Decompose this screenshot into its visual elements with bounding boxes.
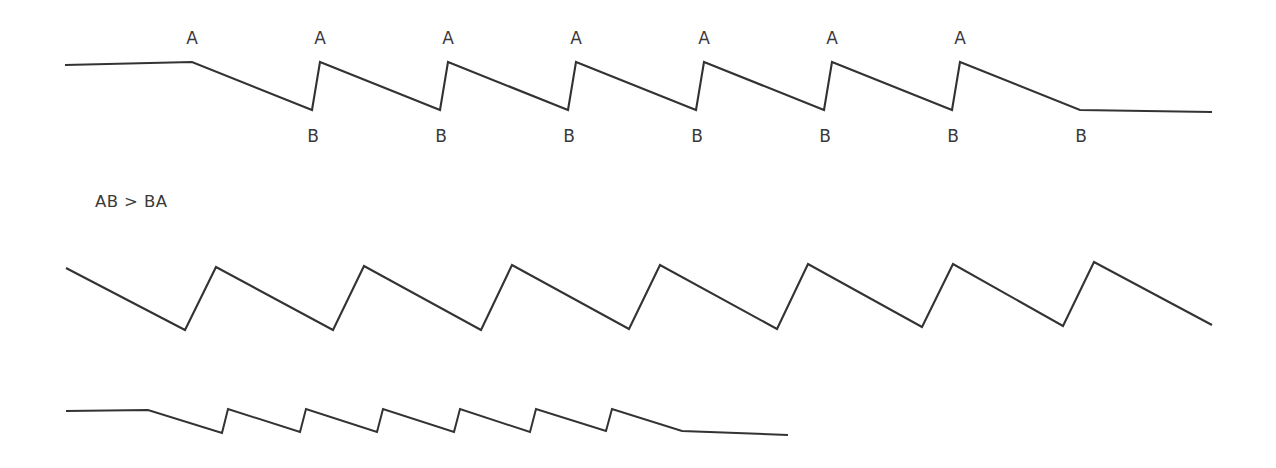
vertex-label-b: B <box>691 126 703 146</box>
vertex-label-b: B <box>819 126 831 146</box>
vertex-label-a: A <box>570 28 582 48</box>
diagram-canvas: AAAAAAA BBBBBBB AB > BA <box>0 0 1276 468</box>
relation-annotation-group: AB > BA <box>95 192 168 211</box>
vertex-label-a: A <box>314 28 326 48</box>
canvas-background <box>0 0 1276 468</box>
vertex-label-a: A <box>698 28 710 48</box>
vertex-label-b: B <box>307 126 319 146</box>
vertex-label-a: A <box>954 28 966 48</box>
vertex-label-b: B <box>947 126 959 146</box>
figure-root: AAAAAAA BBBBBBB AB > BA <box>0 0 1276 468</box>
vertex-label-a: A <box>442 28 454 48</box>
vertex-label-a: A <box>186 28 198 48</box>
vertex-label-a: A <box>826 28 838 48</box>
vertex-label-b: B <box>1075 126 1087 146</box>
vertex-label-b: B <box>563 126 575 146</box>
vertex-label-b: B <box>435 126 447 146</box>
relation-label: AB > BA <box>95 192 168 211</box>
